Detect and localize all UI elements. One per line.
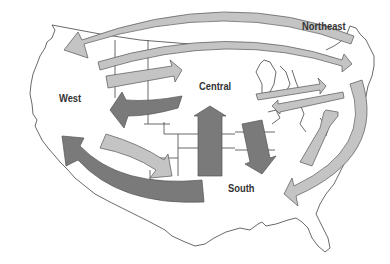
arrow-south-to-northeast [300,110,338,166]
arrow-central-to-south [242,120,276,174]
arrow-central-to-northeast [256,78,326,100]
region-label-south: South [228,182,254,194]
region-label-central: Central [199,80,231,92]
migration-diagram [0,0,390,264]
arrow-west-to-northeast [98,41,352,72]
arrow-south-to-central [194,106,226,176]
arrow-central-to-west [110,92,182,128]
region-label-northeast: Northeast [302,20,346,32]
region-label-west: West [59,92,81,104]
